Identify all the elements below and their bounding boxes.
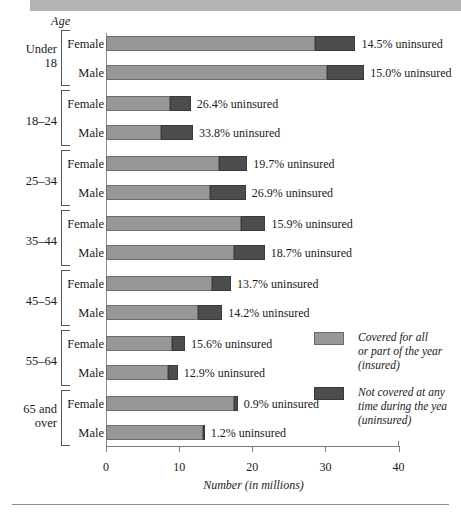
stacked-bar	[106, 156, 247, 171]
age-group-label: Under18	[0, 42, 57, 70]
age-group-label: 18–24	[0, 114, 57, 128]
bar-segment-insured	[106, 245, 234, 260]
stacked-bar	[106, 245, 265, 260]
stacked-bar	[106, 365, 178, 380]
bar-segment-insured	[106, 336, 172, 351]
x-tick-label: 20	[232, 460, 272, 475]
x-axis-label: Number (in millions)	[0, 478, 461, 493]
x-tick-label: 10	[159, 460, 199, 475]
bar-value-label: 13.7% uninsured	[237, 277, 318, 292]
y-axis-line	[106, 33, 107, 446]
bar-value-label: 26.4% uninsured	[197, 97, 278, 112]
stacked-bar	[106, 36, 355, 51]
age-group-bracket	[61, 150, 70, 206]
bar-value-label: 18.7% uninsured	[271, 246, 352, 261]
legend-label-uninsured: Not covered at any time during the yea (…	[358, 385, 461, 427]
bar-value-label: 33.8% uninsured	[199, 126, 280, 141]
age-group-label: 35–44	[0, 234, 57, 248]
bar-value-label: 12.9% uninsured	[184, 366, 265, 381]
bar-segment-uninsured	[168, 365, 178, 380]
bottom-divider	[12, 504, 449, 505]
bar-segment-insured	[106, 216, 241, 231]
bar-segment-uninsured	[234, 396, 238, 411]
bar-segment-insured	[106, 156, 219, 171]
stacked-bar	[106, 125, 193, 140]
legend-uninsured-line-3: (uninsured)	[358, 413, 461, 427]
bar-segment-uninsured	[172, 336, 185, 351]
age-axis-caption: Age	[51, 14, 71, 29]
age-group-label: 45–54	[0, 294, 57, 308]
age-group-bracket	[61, 210, 70, 266]
bar-value-label: 15.9% uninsured	[271, 217, 352, 232]
bar-segment-insured	[106, 36, 315, 51]
bar-segment-insured	[106, 276, 212, 291]
bar-value-label: 1.2% uninsured	[211, 426, 286, 441]
legend-uninsured-line-2: time during the yea	[358, 399, 461, 413]
age-group-bracket	[61, 270, 70, 326]
x-tick	[106, 446, 107, 452]
age-group-bracket	[61, 90, 70, 146]
legend-insured-line-1: Covered for all	[358, 330, 461, 344]
bar-segment-uninsured	[212, 276, 231, 291]
bar-value-label: 14.5% uninsured	[361, 37, 442, 52]
age-group-label: 65 andover	[0, 402, 57, 430]
bar-segment-uninsured	[203, 425, 205, 440]
bar-segment-insured	[106, 305, 198, 320]
bar-segment-insured	[106, 185, 210, 200]
stacked-bar	[106, 276, 231, 291]
legend-insured-line-3: (insured)	[358, 358, 461, 372]
x-tick-label: 40	[379, 460, 419, 475]
x-tick	[252, 446, 253, 452]
legend-insured-line-2: or part of the year	[358, 344, 461, 358]
age-group-bracket	[61, 330, 70, 386]
age-group-bracket	[61, 30, 70, 86]
bar-segment-uninsured	[210, 185, 246, 200]
x-tick-label: 30	[305, 460, 345, 475]
x-tick	[399, 446, 400, 452]
bar-segment-uninsured	[327, 65, 364, 80]
bar-segment-insured	[106, 125, 161, 140]
bar-segment-uninsured	[315, 36, 355, 51]
stacked-bar-chart: Age 010203040 Number (in millions) Femal…	[0, 0, 461, 512]
bar-segment-uninsured	[234, 245, 265, 260]
legend-label-insured: Covered for all or part of the year (ins…	[358, 330, 461, 372]
bar-segment-uninsured	[219, 156, 247, 171]
stacked-bar	[106, 305, 222, 320]
bar-value-label: 0.9% uninsured	[244, 397, 319, 412]
x-tick	[325, 446, 326, 452]
stacked-bar	[106, 216, 265, 231]
age-group-bracket	[61, 390, 70, 446]
bar-segment-uninsured	[198, 305, 222, 320]
legend-uninsured-line-1: Not covered at any	[358, 385, 461, 399]
stacked-bar	[106, 65, 364, 80]
bar-segment-uninsured	[161, 125, 193, 140]
bar-value-label: 26.9% uninsured	[252, 186, 333, 201]
bar-segment-insured	[106, 396, 234, 411]
legend-swatch-uninsured	[314, 387, 344, 400]
stacked-bar	[106, 396, 238, 411]
bar-value-label: 15.6% uninsured	[191, 337, 272, 352]
bar-segment-uninsured	[170, 96, 190, 111]
legend-swatch-insured	[314, 332, 344, 345]
stacked-bar	[106, 96, 191, 111]
stacked-bar	[106, 185, 246, 200]
bar-value-label: 15.0% uninsured	[370, 66, 451, 81]
age-group-label: 55–64	[0, 354, 57, 368]
stacked-bar	[106, 336, 185, 351]
bar-segment-insured	[106, 365, 168, 380]
bar-segment-insured	[106, 96, 170, 111]
stacked-bar	[106, 425, 205, 440]
x-tick-label: 0	[86, 460, 126, 475]
bar-segment-uninsured	[241, 216, 266, 231]
bar-segment-insured	[106, 65, 327, 80]
age-group-label: 25–34	[0, 174, 57, 188]
x-tick	[179, 446, 180, 452]
bar-value-label: 19.7% uninsured	[253, 157, 334, 172]
bar-value-label: 14.2% uninsured	[228, 306, 309, 321]
bar-segment-insured	[106, 425, 203, 440]
